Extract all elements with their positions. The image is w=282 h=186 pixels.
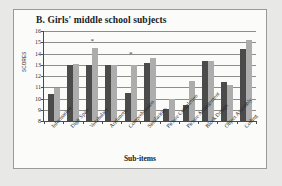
y-tick-label: 12 [35, 73, 41, 79]
bar-group [44, 31, 63, 121]
x-tick-mark [63, 121, 64, 124]
y-tick-label: 8 [38, 118, 41, 124]
y-tick-label: 10 [35, 96, 41, 102]
y-tick-label: 11 [35, 84, 41, 90]
bar-light [73, 64, 79, 121]
significance-marker: * [129, 51, 133, 58]
y-tick-label: 9 [38, 107, 41, 113]
y-tick-mark [41, 54, 44, 55]
x-tick-mark [102, 121, 103, 124]
significance-marker: * [90, 38, 94, 45]
y-tick-mark [41, 110, 44, 111]
y-tick-mark [41, 99, 44, 100]
y-tick-label: 15 [35, 39, 41, 45]
y-tick-label: 16 [35, 28, 41, 34]
y-tick-mark [41, 76, 44, 77]
y-tick-mark [41, 31, 44, 32]
bar-light [150, 58, 156, 121]
x-tick-mark [44, 121, 45, 124]
x-tick-mark [140, 121, 141, 124]
x-tick-mark [256, 121, 257, 124]
figure-frame: B. Girls' middle school subjects SCORES … [13, 9, 267, 169]
x-tick-mark [198, 121, 199, 124]
y-tick-mark [41, 42, 44, 43]
bar-light [208, 61, 214, 121]
y-tick-label: 14 [35, 51, 41, 57]
x-tick-mark [237, 121, 238, 124]
bar-light [111, 65, 117, 121]
x-tick-mark [160, 121, 161, 124]
x-tick-mark [121, 121, 122, 124]
y-tick-label: 13 [35, 62, 41, 68]
bar-light [92, 48, 98, 121]
x-axis-title: Sub-items [14, 154, 266, 163]
y-tick-mark [41, 87, 44, 88]
y-tick-mark [41, 121, 44, 122]
bar-light [131, 65, 137, 121]
y-tick-mark [41, 65, 44, 66]
x-tick-mark [217, 121, 218, 124]
x-tick-mark [83, 121, 84, 124]
y-axis-title: SCORES [22, 51, 27, 72]
chart-title: B. Girls' middle school subjects [36, 15, 167, 25]
x-tick-mark [179, 121, 180, 124]
bar-light [246, 40, 252, 121]
